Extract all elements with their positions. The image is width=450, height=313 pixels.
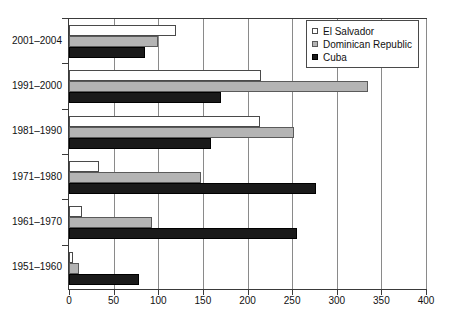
x-axis-tick-label: 200 [228, 295, 268, 307]
gridline [426, 19, 427, 289]
bar [69, 116, 260, 127]
x-axis-tick-label: 100 [138, 295, 178, 307]
legend-label: El Salvador [323, 26, 374, 37]
bar [69, 252, 73, 263]
y-axis-tick [62, 18, 68, 19]
bar [69, 263, 79, 274]
y-axis-label: 1961–1970 [0, 216, 62, 227]
bar [69, 183, 316, 194]
black-square-swatch [312, 54, 318, 60]
bar-group [69, 200, 426, 245]
x-axis-tick-label: 150 [183, 295, 223, 307]
y-axis-label: 1981–1990 [0, 125, 62, 136]
bar [69, 127, 294, 138]
x-axis-tick-label: 50 [94, 295, 134, 307]
y-axis-label: 1991–2000 [0, 80, 62, 91]
bar [69, 161, 99, 172]
y-axis-tick [62, 154, 68, 155]
bar-group [69, 64, 426, 109]
y-axis-label: 1971–1980 [0, 171, 62, 182]
bar [69, 92, 221, 103]
y-axis-label: 1951–1960 [0, 261, 62, 272]
bar [69, 36, 158, 47]
legend-label: Dominican Republic [323, 39, 412, 50]
bar-group [69, 155, 426, 200]
bar [69, 25, 176, 36]
y-axis-label: 2001–2004 [0, 35, 62, 46]
bar [69, 81, 368, 92]
bar-chart: 2001–20041991–20001981–19901971–19801961… [0, 0, 450, 313]
legend-item: Cuba [312, 51, 413, 63]
bar-group [69, 246, 426, 291]
bar [69, 206, 82, 217]
legend-item: El Salvador [312, 25, 413, 37]
hollow-square-swatch [312, 28, 318, 34]
y-axis-tick [62, 245, 68, 246]
gray-square-swatch [312, 41, 318, 47]
y-axis-tick [62, 109, 68, 110]
bar [69, 70, 261, 81]
y-axis-tick [62, 199, 68, 200]
bar [69, 138, 211, 149]
bar [69, 172, 201, 183]
x-axis-tick-label: 300 [317, 295, 357, 307]
x-axis-tick-label: 400 [406, 295, 446, 307]
legend-label: Cuba [323, 52, 347, 63]
bar [69, 47, 145, 58]
bar [69, 228, 297, 239]
x-axis-tick-label: 250 [272, 295, 312, 307]
legend-item: Dominican Republic [312, 38, 413, 50]
bar-group [69, 110, 426, 155]
bar [69, 274, 139, 285]
x-axis-tick-label: 350 [361, 295, 401, 307]
chart-legend: El SalvadorDominican RepublicCuba [306, 20, 419, 68]
x-axis-tick-label: 0 [49, 295, 89, 307]
y-axis-tick [62, 63, 68, 64]
bar [69, 217, 152, 228]
